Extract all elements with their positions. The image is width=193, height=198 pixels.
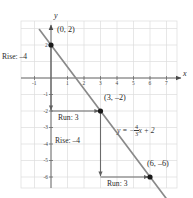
equation-numerator: 4 — [134, 124, 138, 130]
point-3-neg2[interactable] — [98, 108, 103, 113]
run-label-top: Run: 3 — [58, 114, 78, 122]
equation-fraction: 43 — [134, 124, 138, 138]
y-tick-label-neg2: -2 — [44, 109, 49, 114]
x-axis-label: x — [183, 70, 187, 78]
x-tick-label-2: 2 — [83, 81, 86, 86]
rise-label-bottom: Rise: –4 — [55, 137, 80, 145]
point-6-neg6[interactable] — [147, 174, 152, 179]
equation-denominator: 3 — [134, 131, 138, 137]
point-0-2[interactable] — [48, 42, 53, 47]
graph-figure: y x -1 1 2 3 4 5 6 7 2 -1 -2 -3 -4 -5 -6… — [0, 0, 193, 198]
equation-label: y = −43x + 2 — [117, 124, 155, 138]
y-tick-label-neg5: -5 — [44, 158, 49, 163]
x-tick-label-3: 3 — [99, 81, 102, 86]
y-tick-label-neg3: -3 — [44, 125, 49, 130]
y-axis-label: y — [54, 12, 58, 20]
y-tick-label-neg1: -1 — [44, 92, 49, 97]
point-label-6-neg6: (6, –6) — [147, 160, 169, 168]
x-tick-label-1: 1 — [66, 81, 69, 86]
x-tick-label-6: 6 — [149, 81, 152, 86]
point-label-3-neg2: (3, –2) — [104, 94, 126, 102]
x-tick-label-5: 5 — [132, 81, 135, 86]
run-label-bottom: Run: 3 — [107, 180, 127, 188]
y-tick-label-neg6: -6 — [44, 175, 49, 180]
y-tick-label-neg4: -4 — [44, 142, 49, 147]
rise-label-top: Rise: –4 — [2, 53, 27, 61]
point-label-0-2: (0, 2) — [57, 26, 75, 34]
equation-constant: 2 — [151, 126, 155, 135]
coordinate-plane-svg — [0, 0, 193, 198]
x-tick-label-neg1: -1 — [32, 81, 37, 86]
x-tick-label-7: 7 — [165, 81, 168, 86]
x-tick-label-4: 4 — [116, 81, 119, 86]
y-tick-label-2: 2 — [45, 43, 48, 48]
